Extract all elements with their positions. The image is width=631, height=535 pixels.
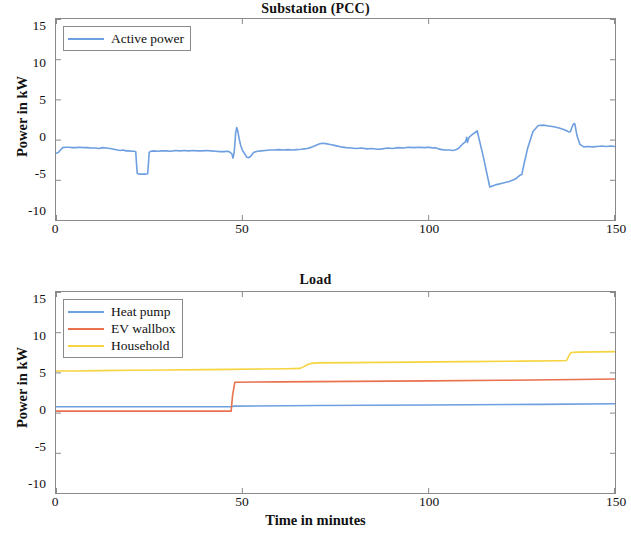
legend-swatch-household-icon: [68, 345, 104, 347]
legend-label: EV wallbox: [111, 320, 176, 337]
y-tick-top-1: 10: [0, 55, 46, 71]
x-tick-bot-2: 100: [409, 494, 449, 510]
legend-entry[interactable]: Household: [68, 337, 176, 354]
y-tick-top-5: -10: [0, 203, 46, 219]
panel-title-substation: Substation (PCC): [0, 1, 631, 17]
chart-panel-substation: Substation (PCC) Power in kW 15 10 5 0 -…: [0, 0, 631, 268]
legend-swatch-ev-wallbox-icon: [68, 328, 104, 330]
y-tick-bot-5: -10: [0, 476, 46, 492]
y-tick-top-2: 5: [0, 92, 46, 108]
legend-label: Active power: [111, 30, 184, 47]
series-line: [56, 404, 615, 407]
y-tick-bot-0: 15: [0, 291, 46, 307]
legend-entry[interactable]: Active power: [68, 30, 184, 47]
y-tick-top-4: -5: [0, 166, 46, 182]
x-tick-top-1: 50: [222, 221, 262, 237]
legend-substation: Active power: [63, 26, 191, 51]
panel-title-load: Load: [0, 272, 631, 288]
x-tick-top-3: 150: [596, 221, 631, 237]
x-tick-top-0: 0: [35, 221, 75, 237]
legend-swatch-active-power-icon: [68, 38, 104, 40]
series-line: [56, 124, 615, 188]
y-tick-top-3: 0: [0, 129, 46, 145]
chart-panel-load: Load Power in kW 15 10 5 0 -5 -10 0 50 1…: [0, 267, 631, 535]
x-tick-bot-0: 0: [35, 494, 75, 510]
legend-label: Household: [111, 337, 170, 354]
y-tick-top-0: 15: [0, 18, 46, 34]
legend-entry[interactable]: Heat pump: [68, 303, 176, 320]
legend-load: Heat pumpEV wallboxHousehold: [63, 299, 183, 358]
y-tick-bot-4: -5: [0, 439, 46, 455]
legend-label: Heat pump: [111, 303, 171, 320]
y-tick-bot-2: 5: [0, 365, 46, 381]
x-tick-bot-1: 50: [222, 494, 262, 510]
x-tick-bot-3: 150: [596, 494, 631, 510]
y-tick-bot-1: 10: [0, 328, 46, 344]
figure-root: Substation (PCC) Power in kW 15 10 5 0 -…: [0, 0, 631, 535]
legend-entry[interactable]: EV wallbox: [68, 320, 176, 337]
legend-swatch-heat-pump-icon: [68, 311, 104, 313]
x-tick-top-2: 100: [409, 221, 449, 237]
x-axis-label: Time in minutes: [0, 512, 631, 529]
y-tick-bot-3: 0: [0, 402, 46, 418]
